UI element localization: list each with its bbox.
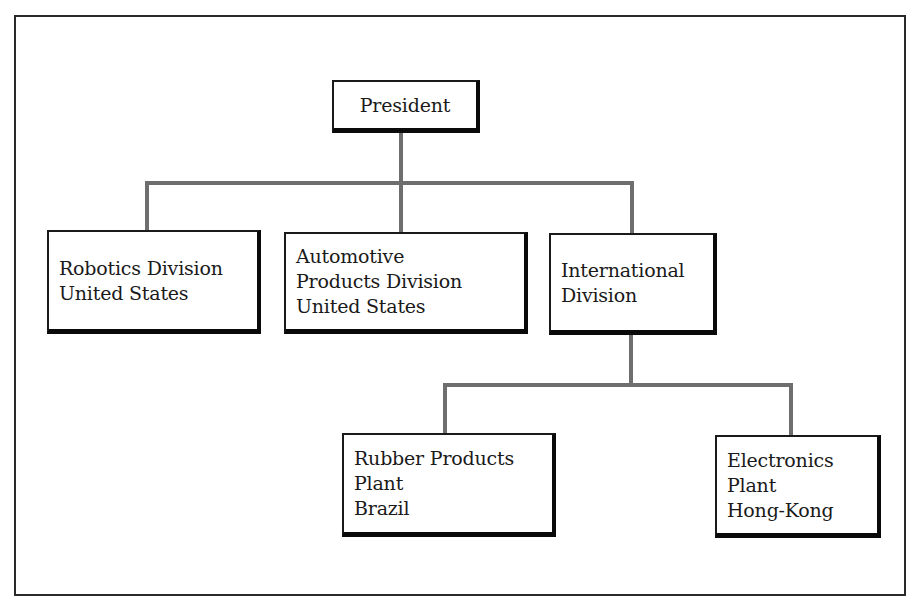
node-electronics-plant: Electronics Plant Hong-Kong <box>715 435 881 538</box>
node-international-line-2: Division <box>561 283 713 308</box>
node-president-line-1: President <box>360 93 450 118</box>
node-international-line-1: International <box>561 258 713 283</box>
node-rubber-line-3: Brazil <box>354 496 552 521</box>
node-rubber-products-plant: Rubber Products Plant Brazil <box>342 433 556 537</box>
node-automotive-line-1: Automotive <box>296 244 524 269</box>
connector-level2-horizontal <box>443 383 793 387</box>
node-automotive-line-3: United States <box>296 294 524 319</box>
connector-president-down <box>399 132 403 185</box>
node-rubber-line-1: Rubber Products <box>354 446 552 471</box>
connector-rubber <box>443 383 447 435</box>
node-automotive-line-2: Products Division <box>296 269 524 294</box>
connector-robotics <box>145 181 149 232</box>
node-international-division: International Division <box>549 233 717 335</box>
node-robotics-division: Robotics Division United States <box>47 230 261 334</box>
node-electronics-line-2: Plant <box>727 473 877 498</box>
node-robotics-line-2: United States <box>59 281 257 306</box>
connector-level1-horizontal <box>145 181 634 185</box>
node-electronics-line-3: Hong-Kong <box>727 498 877 523</box>
connector-international-down <box>629 334 633 387</box>
node-robotics-line-1: Robotics Division <box>59 256 257 281</box>
node-rubber-line-2: Plant <box>354 471 552 496</box>
node-president: President <box>332 80 480 133</box>
connector-electronics <box>789 383 793 437</box>
node-automotive-division: Automotive Products Division United Stat… <box>284 232 528 334</box>
node-electronics-line-1: Electronics <box>727 448 877 473</box>
connector-automotive <box>399 181 403 234</box>
connector-international <box>630 181 634 235</box>
